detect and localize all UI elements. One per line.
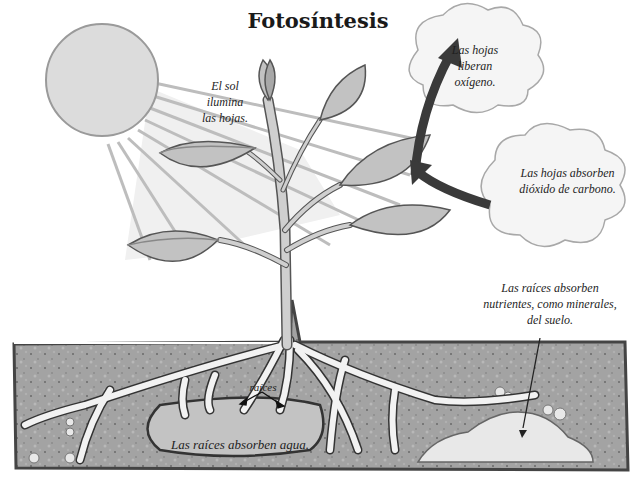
illustration — [0, 0, 635, 486]
co2-arrow — [410, 160, 490, 205]
sun — [46, 24, 158, 136]
roots-label: raíces — [238, 380, 288, 395]
sun-label: El sol ilumina las hojas. — [185, 78, 265, 127]
co2-label-line-2: dióxido de carbono. — [500, 181, 635, 197]
water-label: Las raíces absorben agua. — [150, 436, 330, 454]
oxygen-label-line-3: oxígeno. — [435, 74, 515, 90]
diagram-title: Fotosíntesis — [218, 8, 418, 33]
oxygen-label-line-1: Las hojas — [435, 42, 515, 58]
nutrients-label-line-2: nutrientes, como minerales, — [465, 296, 635, 312]
sun-label-line-3: las hojas. — [185, 110, 265, 126]
nutrients-label: Las raíces absorben nutrientes, como min… — [465, 280, 635, 329]
sun-label-line-1: El sol — [185, 78, 265, 94]
oxygen-label: Las hojas liberan oxígeno. — [435, 42, 515, 91]
photosynthesis-diagram: Fotosíntesis El sol ilumina las hojas. L… — [0, 0, 635, 486]
oxygen-label-line-2: liberan — [435, 58, 515, 74]
co2-label-line-1: Las hojas absorben — [500, 165, 635, 181]
sun-label-line-2: ilumina — [185, 94, 265, 110]
co2-label: Las hojas absorben dióxido de carbono. — [500, 165, 635, 197]
nutrients-label-line-1: Las raíces absorben — [465, 280, 635, 296]
nutrients-label-line-3: del suelo. — [465, 312, 635, 328]
